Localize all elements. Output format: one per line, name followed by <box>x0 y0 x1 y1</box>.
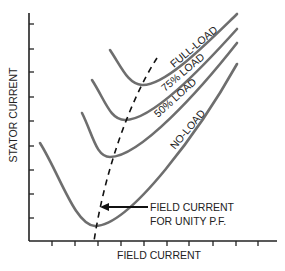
x-axis-label: FIELD CURRENT <box>117 249 202 261</box>
label-no-load: NO-LOAD <box>167 107 207 152</box>
y-axis-label: STATOR CURRENT <box>7 67 19 163</box>
curve-50-load <box>82 43 237 157</box>
annotation-line-1: FIELD CURRENT <box>150 201 235 213</box>
diagram-canvas: FULL-LOAD 75% LOAD 50% LOAD NO-LOAD FIEL… <box>0 0 285 271</box>
v-curve-diagram: FULL-LOAD 75% LOAD 50% LOAD NO-LOAD FIEL… <box>0 0 285 271</box>
annotation-line-2: FOR UNITY P.F. <box>150 215 226 227</box>
annotation-arrow <box>100 203 148 211</box>
